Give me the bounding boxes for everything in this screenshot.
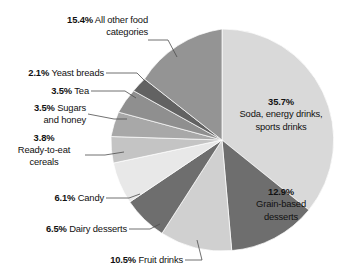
slice-label-dairy-desserts: 6.5% Dairy desserts (0, 223, 127, 235)
slice-label-soda: 35.7% Soda, energy drinks, sports drinks (224, 96, 338, 133)
slice-name-all-other-food-categories-line2: categories (106, 26, 148, 37)
slice-name-tea: Tea (74, 85, 89, 96)
slice-percent-tea: 3.5% (51, 85, 72, 96)
slice-name-ready-to-eat-cereals-line1: Ready-to-eat (18, 144, 70, 155)
slice-label-tea: 3.5% Tea (0, 85, 89, 97)
slice-name-sugars-and-honey-line1: Sugars (57, 102, 86, 113)
slice-label-grain-based-desserts: 12.9% Grain-based desserts (228, 186, 334, 223)
slice-label-candy: 6.1% Candy (0, 192, 104, 204)
slice-percent-ready-to-eat-cereals: 3.8% (34, 132, 55, 143)
slice-percent-yeast-breads: 2.1% (28, 67, 49, 78)
slice-name-grain-based-desserts-line2: desserts (228, 211, 334, 223)
slice-label-sugars-and-honey: 3.5% Sugars and honey (0, 102, 86, 126)
slice-name-grain-based-desserts-line1: Grain-based (228, 198, 334, 210)
slice-name-ready-to-eat-cereals-line2: cereals (29, 156, 58, 167)
slice-percent-sugars-and-honey: 3.5% (34, 102, 55, 113)
slice-percent-soda: 35.7% (224, 96, 338, 108)
slice-percent-all-other-food-categories: 15.4% (67, 14, 93, 25)
slice-percent-candy: 6.1% (54, 192, 75, 203)
slice-percent-grain-based-desserts: 12.9% (228, 186, 334, 198)
slice-name-dairy-desserts: Dairy desserts (69, 223, 127, 234)
slice-name-fruit-drinks: Fruit drinks (138, 254, 183, 265)
slice-name-sugars-and-honey-line2: and honey (44, 114, 86, 125)
slice-name-soda-line1: Soda, energy drinks, (224, 108, 338, 120)
pie-chart: 35.7% Soda, energy drinks, sports drinks… (0, 0, 340, 280)
slice-name-yeast-breads: Yeast breads (51, 67, 104, 78)
slice-label-yeast-breads: 2.1% Yeast breads (0, 67, 104, 79)
slice-percent-fruit-drinks: 10.5% (110, 254, 136, 265)
slice-name-all-other-food-categories-line1: All other food (95, 14, 148, 25)
slice-percent-dairy-desserts: 6.5% (46, 223, 67, 234)
leader-line-yeast-breads (106, 73, 146, 82)
slice-label-fruit-drinks: 10.5% Fruit drinks (57, 254, 183, 266)
slice-name-soda-line2: sports drinks (224, 121, 338, 133)
slice-label-ready-to-eat-cereals: 3.8% Ready-to-eat cereals (0, 132, 88, 169)
slice-label-all-other-food-categories: 15.4% All other food categories (18, 14, 148, 38)
slice-name-candy: Candy (78, 192, 104, 203)
